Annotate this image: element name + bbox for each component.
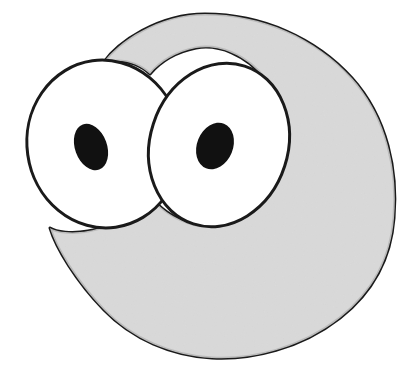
cartoon-creature-figure — [0, 0, 409, 377]
image-canvas — [0, 0, 409, 377]
